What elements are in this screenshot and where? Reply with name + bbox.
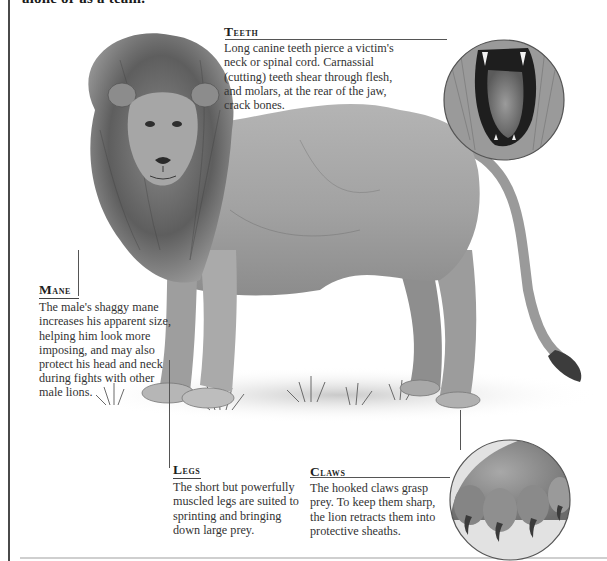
teeth-inset xyxy=(444,40,564,160)
legs-line-3: sprinting and bringing xyxy=(173,509,333,523)
claws-line-1: The hooked claws grasp xyxy=(310,481,450,495)
mane-line-5: protect his head and neck xyxy=(39,357,199,371)
mane-callout: Mane The male's shaggy mane increases hi… xyxy=(39,283,199,400)
mane-line-6: during fights with other xyxy=(39,371,199,385)
tail-tuft xyxy=(548,350,581,382)
claws-leader-vertical xyxy=(460,410,461,450)
legs-line-2: muscled legs are suited to xyxy=(173,494,333,508)
claws-inset xyxy=(450,440,576,560)
mane-line-1: The male's shaggy mane xyxy=(39,300,199,314)
legs-line-4: down large prey. xyxy=(173,523,333,537)
claws-line-2: prey. To keep them sharp, xyxy=(310,495,450,509)
lion-anatomy-page: alone or as a team. xyxy=(0,0,607,561)
claws-line-4: protective sheaths. xyxy=(310,524,450,538)
mane-line-2: increases his apparent size, xyxy=(39,314,199,328)
legs-heading: Legs xyxy=(173,463,201,479)
teeth-callout: Teeth Long canine teeth pierce a victim'… xyxy=(224,25,454,112)
mane-line-7: male lions. xyxy=(39,385,199,399)
teeth-line-5: crack bones. xyxy=(224,98,454,112)
mane-line-3: helping him look more xyxy=(39,329,199,343)
teeth-line-3: (cutting) teeth shear through flesh, xyxy=(224,70,454,84)
mane-heading: Mane xyxy=(39,283,79,299)
claws-line-3: the lion retracts them into xyxy=(310,510,450,524)
legs-line-1: The short but powerfully xyxy=(173,480,333,494)
claws-heading: Claws xyxy=(310,465,345,480)
claws-callout: Claws The hooked claws grasp prey. To ke… xyxy=(310,465,450,538)
teeth-heading: Teeth xyxy=(224,25,258,40)
mane-line-4: imposing, and may also xyxy=(39,343,199,357)
teeth-line-4: and molars, at the rear of the jaw, xyxy=(224,84,454,98)
legs-callout: Legs The short but powerfully muscled le… xyxy=(173,463,333,537)
teeth-line-1: Long canine teeth pierce a victim's xyxy=(224,41,454,55)
teeth-line-2: neck or spinal cord. Carnassial xyxy=(224,55,454,69)
